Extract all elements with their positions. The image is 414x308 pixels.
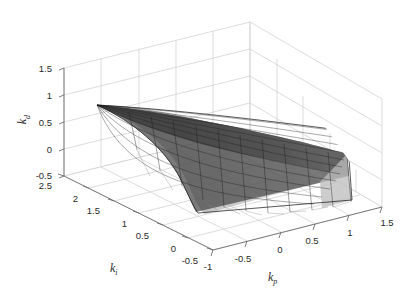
y-tick-label: 2.5 xyxy=(24,181,52,191)
y-tick-label: 0 xyxy=(148,244,176,254)
y-axis-title: ki xyxy=(110,262,118,277)
x-axis-title-sub: p xyxy=(273,277,277,286)
y-tick-label: 2 xyxy=(50,194,78,204)
x-axis-title: kp xyxy=(268,271,277,286)
y-tick-label: 1.5 xyxy=(72,206,100,216)
y-tick-label: -0.5 xyxy=(170,256,198,266)
x-tick-label: -0.5 xyxy=(229,254,257,264)
x-tick-label: 0.5 xyxy=(298,236,326,246)
z-axis-title-sub: d xyxy=(23,115,32,119)
x-tick-label: 1.5 xyxy=(373,218,401,228)
z-tick-label: 1 xyxy=(26,91,52,101)
x-tick-label: 0 xyxy=(268,245,292,255)
z-axis-title-text: k xyxy=(15,119,29,124)
y-tick-label: 1 xyxy=(99,219,127,229)
plot-figure: 1.5 1 0.5 0 -0.5 2.5 2 1.5 1 0.5 0 -0.5 … xyxy=(0,0,414,308)
z-tick-label: 1.5 xyxy=(26,64,52,74)
x-tick-label: 1 xyxy=(338,228,362,238)
z-axis-title: kd xyxy=(16,108,31,132)
y-axis-title-sub: i xyxy=(115,268,117,277)
y-tick-label: 0.5 xyxy=(121,231,149,241)
z-axis-ticks xyxy=(59,68,64,178)
x-tick-label: -1 xyxy=(196,262,220,272)
z-tick-label: 0 xyxy=(26,145,52,155)
